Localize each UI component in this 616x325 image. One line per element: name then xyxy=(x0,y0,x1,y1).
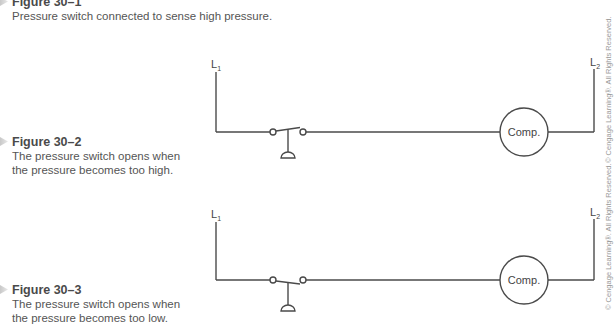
copyright-notice: © Cengage Learning®. All Rights Reserved… xyxy=(604,163,613,310)
circuit-figure-30-2: L1 Comp. L2 xyxy=(211,56,600,158)
l2-label: L2 xyxy=(590,56,600,70)
l2-label: L2 xyxy=(590,206,600,220)
l1-label: L1 xyxy=(211,208,221,222)
switch-contact xyxy=(270,277,276,283)
switch-contact xyxy=(270,129,276,135)
switch-contact xyxy=(300,277,306,283)
switch-contact xyxy=(300,129,306,135)
pressure-diaphragm-icon xyxy=(281,305,295,311)
compressor-label: Comp. xyxy=(508,274,540,286)
compressor-label: Comp. xyxy=(508,126,540,138)
l1-label: L1 xyxy=(211,58,221,72)
circuit-diagrams: L1 Comp. L2 L1 Comp. xyxy=(0,0,616,325)
pressure-diaphragm-icon xyxy=(281,152,295,158)
circuit-figure-30-3: L1 Comp. L2 xyxy=(211,206,600,311)
copyright-notice: © Cengage Learning®. All Rights Reserved… xyxy=(604,16,613,163)
